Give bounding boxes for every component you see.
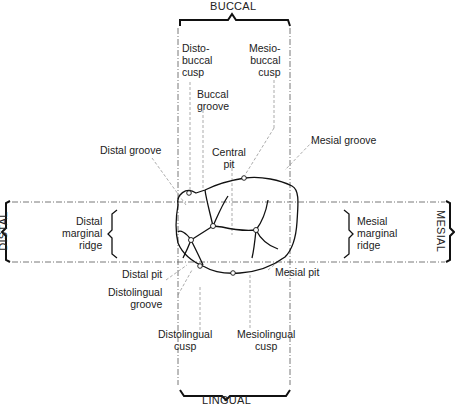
mesial-marginal-ridge-label: Mesial marginal ridge: [357, 215, 397, 251]
distal-marginal-ridge-label: Distal marginal ridge: [62, 215, 102, 251]
mesiobuccal-cusp-label: Mesio- buccal cusp: [249, 42, 281, 78]
distolingual-groove-label: Distolingual groove: [108, 286, 162, 310]
distolingual-cusp-label: Distolingual cusp: [158, 328, 212, 352]
distal-label: DISTAL: [0, 211, 9, 251]
mesial-pit-label: Mesial pit: [275, 266, 319, 278]
central-pit-label: Central pit: [212, 146, 246, 170]
buccal-label: BUCCAL: [210, 0, 256, 12]
mesial-label: MESIAL: [435, 210, 447, 252]
mesial-groove-label: Mesial groove: [311, 134, 376, 146]
distal-pit-label: Distal pit: [122, 268, 162, 280]
distal-groove-label: Distal groove: [100, 144, 161, 156]
tooth-occlusal-diagram: [0, 0, 455, 408]
lingual-label: LINGUAL: [202, 394, 251, 406]
mesiolingual-cusp-label: Mesiolingual cusp: [237, 328, 295, 352]
buccal-groove-label: Buccal groove: [197, 88, 229, 112]
distobuccal-cusp-label: Disto- buccal cusp: [182, 42, 212, 78]
